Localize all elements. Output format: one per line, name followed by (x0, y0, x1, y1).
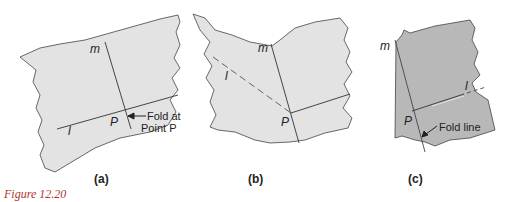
sublabel-b: (b) (248, 172, 263, 186)
figure-caption: Figure 12.20 (3, 187, 66, 201)
label-p-b: P (281, 115, 289, 129)
figure-canvas: m l P Fold at Point P m l P m l P Fold l… (0, 0, 512, 202)
label-p-c: P (404, 114, 412, 128)
label-l-c: l (465, 79, 468, 93)
panel-a (20, 15, 180, 172)
sublabel-c: (c) (408, 172, 423, 186)
label-l-b: l (225, 69, 228, 83)
annotation-a-line2: Point P (141, 122, 176, 134)
sublabel-a: (a) (94, 172, 109, 186)
label-p-a: P (110, 115, 118, 129)
paper-b (193, 14, 352, 143)
label-m-a: m (90, 42, 100, 56)
label-m-c: m (380, 39, 390, 53)
annotation-c: Fold line (439, 121, 481, 133)
label-l-a: l (68, 124, 71, 138)
panel-b (193, 14, 352, 143)
paper-a (20, 15, 180, 172)
label-m-b: m (258, 41, 268, 55)
annotation-a-line1: Fold at (147, 110, 181, 122)
